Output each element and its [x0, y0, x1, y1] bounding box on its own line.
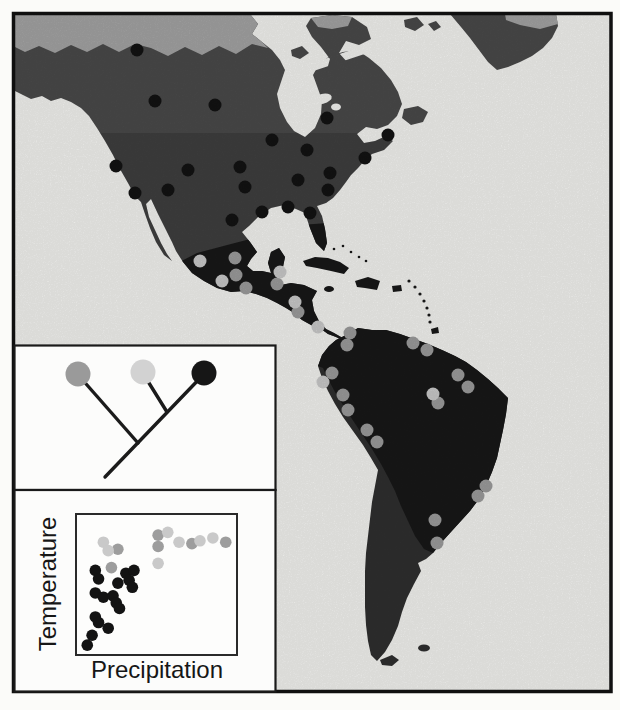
scatter-point-light — [152, 558, 164, 570]
tree-tip-light-gray-circle — [131, 360, 156, 385]
scatter-point-light — [173, 536, 185, 548]
phylogeny-inset — [15, 346, 276, 491]
scatter-point-mid — [220, 536, 232, 548]
scatter-point-mid — [106, 562, 118, 574]
scatter-point-light — [162, 527, 174, 539]
figure-svg: Temperature Precipitation — [0, 0, 620, 710]
scatter-point-dark — [128, 565, 140, 577]
scatter-point-dark — [127, 582, 139, 594]
scatter-point-dark — [81, 639, 93, 651]
y-axis-label: Temperature — [34, 517, 61, 652]
scatter-point-dark — [93, 617, 105, 629]
scatter-point-dark — [86, 629, 98, 641]
scatter-point-dark — [93, 573, 105, 585]
scatter-point-mid — [152, 541, 164, 553]
scatter-point-dark — [114, 603, 126, 615]
scatter-point-dark — [112, 577, 124, 589]
x-axis-label: Precipitation — [91, 656, 223, 683]
scatter-point-light — [102, 545, 114, 557]
scatter-point-light — [207, 532, 219, 544]
climate-scatter-inset: Temperature Precipitation — [15, 490, 276, 692]
tree-tip-dark-circle — [192, 361, 217, 386]
scatter-point-dark — [102, 622, 114, 634]
scatter-point-light — [194, 535, 206, 547]
tree-tip-mid-gray-circle — [66, 362, 91, 387]
figure-page: Temperature Precipitation — [0, 0, 620, 710]
